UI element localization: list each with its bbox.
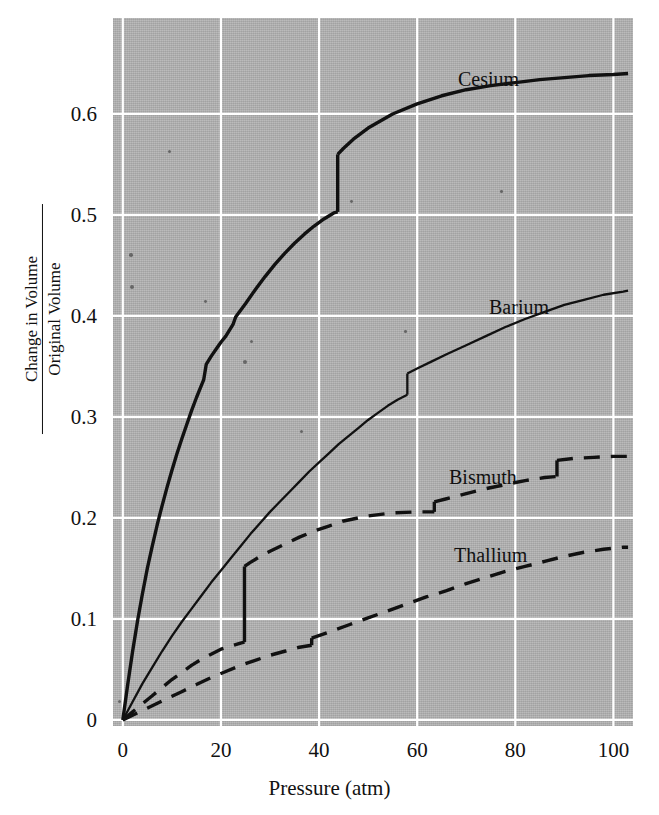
- y-tick-label: 0.4: [71, 303, 97, 328]
- series-path: [123, 645, 312, 720]
- y-tick-label: 0.6: [71, 101, 97, 126]
- print-speck: [168, 150, 171, 153]
- print-speck: [130, 285, 134, 289]
- series-bismuth: [123, 456, 628, 720]
- print-speck: [129, 253, 133, 257]
- series-path: [244, 512, 434, 567]
- cesium-label: Cesium: [458, 68, 519, 91]
- y-axis-title: Change in Volume Original Volume: [22, 204, 64, 434]
- y-axis-title-numerator: Change in Volume: [22, 204, 43, 434]
- barium-label: Barium: [489, 296, 549, 319]
- series-thallium: [123, 547, 628, 720]
- x-tick-label: 20: [210, 738, 231, 763]
- series-path: [123, 212, 338, 720]
- print-speck: [250, 340, 253, 343]
- x-tick-label: 40: [309, 738, 330, 763]
- y-axis-title-denominator: Original Volume: [43, 204, 64, 434]
- print-speck: [500, 190, 503, 193]
- print-speck: [350, 200, 353, 203]
- series-path: [123, 395, 408, 720]
- y-tick-label: 0.3: [71, 404, 97, 429]
- print-speck: [404, 330, 407, 333]
- print-speck: [204, 300, 207, 303]
- series-path: [557, 456, 628, 460]
- x-tick-label: 0: [118, 738, 129, 763]
- x-axis-title: Pressure (atm): [0, 776, 659, 801]
- print-speck: [243, 360, 247, 364]
- y-tick-label: 0: [87, 707, 98, 732]
- y-tick-label: 0.5: [71, 202, 97, 227]
- plot-area: [113, 18, 633, 726]
- thallium-label: Thallium: [454, 544, 527, 567]
- x-tick-label: 100: [598, 738, 630, 763]
- x-tick-label: 60: [407, 738, 428, 763]
- series-path: [123, 642, 245, 720]
- series-cesium: [123, 74, 628, 720]
- x-tick-label: 80: [505, 738, 526, 763]
- series-barium: [123, 291, 628, 720]
- pressure-volume-chart: 00.10.20.30.40.50.6 020406080100 Change …: [0, 0, 659, 815]
- plot-svg: [113, 18, 633, 726]
- y-tick-label: 0.1: [71, 606, 97, 631]
- bismuth-label: Bismuth: [449, 466, 517, 489]
- y-tick-label: 0.2: [71, 505, 97, 530]
